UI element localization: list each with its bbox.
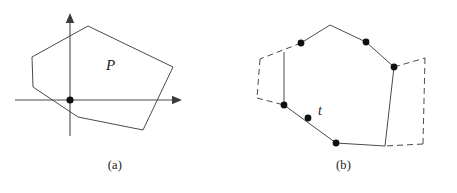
vertex-dot-upper-right — [363, 39, 370, 46]
interior-point-t — [305, 115, 312, 122]
dashed-boundary-group — [257, 43, 425, 146]
vertex-dot-left — [281, 102, 288, 109]
x-axis-arrowhead — [172, 96, 182, 104]
caption-b: (b) — [230, 158, 457, 173]
origin-dot — [66, 96, 73, 103]
solid-edge — [330, 25, 366, 42]
panel-a-drawing: P — [0, 0, 230, 155]
caption-a: (a) — [0, 158, 230, 173]
polygon-label-P: P — [105, 57, 115, 73]
y-axis-arrowhead — [66, 13, 74, 23]
polygon-P — [32, 26, 173, 130]
solid-edge — [336, 143, 385, 146]
dashed-edge — [394, 58, 425, 67]
solid-edge — [284, 105, 336, 143]
solid-edge — [366, 42, 394, 67]
vertex-dot-upper-left — [298, 40, 305, 47]
solid-edge — [301, 25, 330, 43]
solid-edge — [385, 67, 394, 146]
vertex-dot-bottom — [333, 140, 340, 147]
vertex-dot-right — [391, 64, 398, 71]
figure-panel-a: P (a) — [0, 0, 230, 193]
figure-container: P (a) t (b) — [0, 0, 457, 193]
point-label-t: t — [318, 103, 323, 118]
figure-panel-b: t (b) — [230, 0, 457, 193]
dashed-edge — [260, 43, 301, 59]
dashed-edge — [257, 98, 284, 105]
dashed-edge — [257, 59, 260, 98]
dashed-edge — [385, 144, 423, 146]
panel-b-drawing: t — [230, 0, 457, 155]
dashed-edge — [423, 58, 425, 144]
